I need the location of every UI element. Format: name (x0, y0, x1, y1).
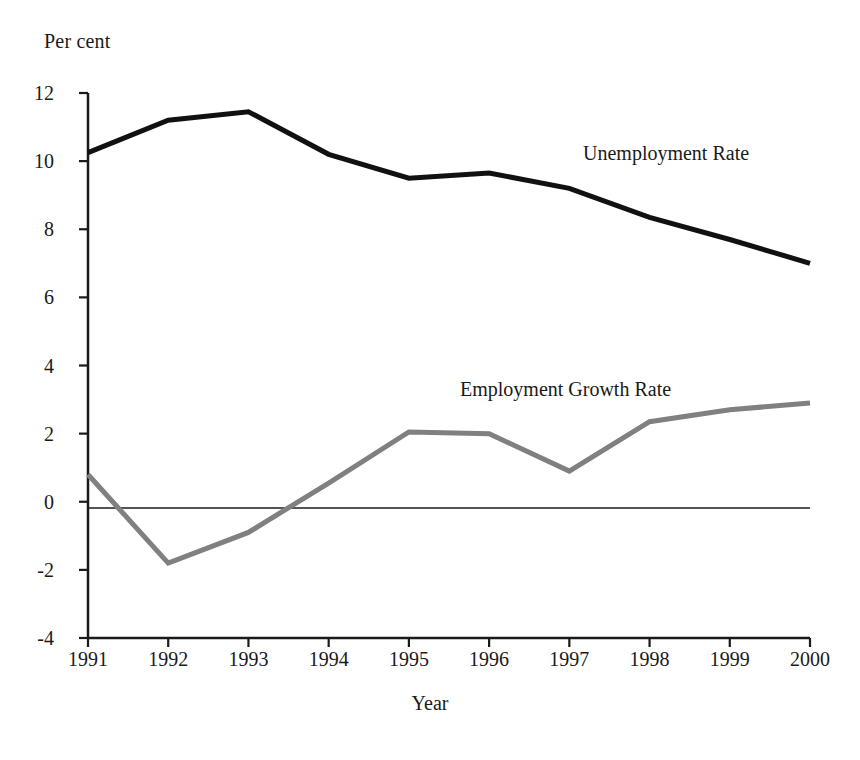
x-axis-tick-label: 1991 (43, 648, 133, 671)
x-axis-title: Year (0, 692, 860, 715)
x-axis-tick-label: 1992 (123, 648, 213, 671)
series-line-employment-growth-rate (88, 403, 810, 563)
x-axis-tick-label: 1999 (685, 648, 775, 671)
data-series-group (88, 112, 810, 563)
x-axis-tick-label: 1998 (605, 648, 695, 671)
x-axis-tick-label: 1993 (203, 648, 293, 671)
x-axis-tick-label: 1995 (364, 648, 454, 671)
series-label-unemployment-rate: Unemployment Rate (583, 142, 749, 165)
chart-figure: Per cent 121086420-2-4 19911992199319941… (0, 0, 860, 760)
y-axis-ticks (79, 93, 88, 638)
x-axis-tick-label: 1996 (444, 648, 534, 671)
y-axis-tick-label: 0 (8, 490, 54, 513)
series-label-employment-growth-rate: Employment Growth Rate (460, 378, 671, 401)
y-axis-tick-label: 12 (8, 82, 54, 105)
y-axis-tick-label: 6 (8, 286, 54, 309)
x-axis-tick-label: 1997 (524, 648, 614, 671)
x-axis-ticks (88, 638, 810, 647)
series-line-unemployment-rate (88, 112, 810, 264)
y-axis-tick-label: -4 (8, 627, 54, 650)
x-axis-tick-label: 2000 (765, 648, 855, 671)
y-axis-tick-label: 2 (8, 422, 54, 445)
line-chart-plot (0, 0, 860, 760)
y-axis-tick-label: 8 (8, 218, 54, 241)
y-axis-tick-label: 10 (8, 150, 54, 173)
x-axis-tick-label: 1994 (284, 648, 374, 671)
y-axis-tick-label: -2 (8, 558, 54, 581)
y-axis-tick-label: 4 (8, 354, 54, 377)
